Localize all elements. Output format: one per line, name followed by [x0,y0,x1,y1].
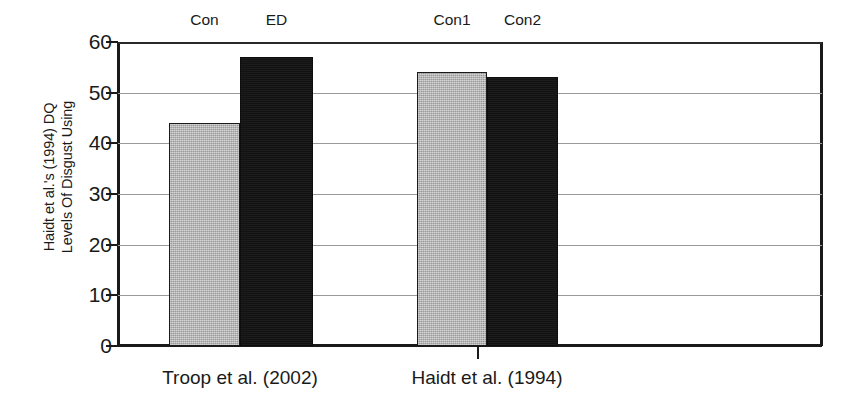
bar-con2 [487,77,558,346]
y-axis-title-line-2: Haidt et al.'s (1994) DQ [40,103,58,252]
bar-label-con1: Con1 [417,12,487,28]
bar-con1 [417,72,487,346]
group-divider-tick [477,346,479,359]
bar-label-con: Con [169,12,240,28]
y-tick-mark-0 [106,345,118,347]
y-tick-mark-30 [106,193,118,195]
bar-con [169,123,240,346]
y-tick-mark-50 [106,92,118,94]
bar-label-ed: ED [240,12,313,28]
group-label-2: Haidt et al. (1994) [367,368,607,388]
plot-area [118,42,822,346]
bar-chart: Levels Of Disgust Using Haidt et al.'s (… [0,0,845,412]
y-tick-mark-40 [106,142,118,144]
y-axis-tick-labels: 0102030405060 [58,0,112,412]
y-tick-mark-20 [106,244,118,246]
bar-ed [240,57,313,346]
group-label-1: Troop et al. (2002) [120,368,360,388]
bar-label-con2: Con2 [487,12,558,28]
gridline-60 [118,42,822,44]
y-tick-mark-10 [106,294,118,296]
y-tick-mark-60 [106,41,118,43]
